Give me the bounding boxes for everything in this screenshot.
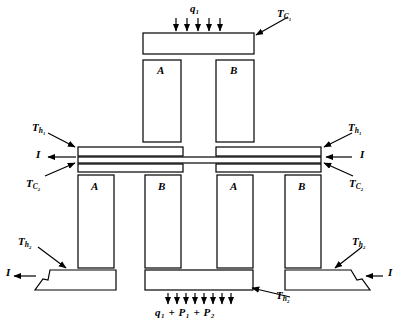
leader-Th1-right: [324, 133, 352, 147]
temperature-sub-TC2-right: C₂: [356, 182, 364, 191]
temperature-base-TC1: T: [277, 7, 284, 19]
bottom-plate-center: [145, 270, 253, 290]
temperature-sub-Th2-right: h₂: [359, 240, 366, 249]
mid-strip-upper-right: [216, 147, 321, 156]
current-label-left-bottom: I: [6, 267, 10, 278]
temperature-sub-Th2-left: h₂: [25, 240, 32, 249]
top-cold-plate: [143, 33, 254, 54]
mid-strip-upper-left: [78, 147, 183, 156]
heat-flux-arrows-bottom: [168, 293, 231, 304]
temperature-label-TC1: TC₁: [277, 8, 291, 20]
temperature-sub-TC1: C₁: [284, 12, 292, 21]
temperature-base-Th2-center: T: [276, 289, 283, 301]
heat-flux-arrows-top: [176, 18, 220, 31]
leader-Th1-left: [48, 133, 75, 147]
temperature-label-TC2-right: TC₂: [349, 178, 363, 190]
temperature-base-Th1-right: T: [348, 121, 355, 133]
temperature-label-Th2-center: Th₂: [276, 290, 290, 302]
heat-flux-label-top: q₁: [190, 3, 199, 14]
current-label-right-bottom: I: [388, 267, 392, 278]
heat-flux-label-bottom: q₁ + P₁ + P₂: [155, 307, 215, 318]
bottom-plate-left: [35, 270, 116, 290]
bottom-plate-right: [285, 270, 370, 290]
temperature-label-TC2-left: TC₂: [26, 178, 40, 190]
current-label-left-middle: I: [36, 149, 40, 160]
temperature-base-Th1-left: T: [32, 121, 39, 133]
leg-label-lower-A-1: A: [91, 181, 98, 192]
temperature-base-Th2-left: T: [18, 235, 25, 247]
temperature-sub-Th2-center: h₂: [283, 294, 290, 303]
temperature-sub-Th1-right: h₁: [355, 126, 362, 135]
temperature-label-Th2-right: Th₂: [352, 236, 366, 248]
leader-TC2-left: [45, 163, 75, 176]
figure-canvas: A B A B A B TC₁ Th₁ TC₂ Th₁ TC₂ Th₂ Th₂ …: [0, 0, 401, 325]
temperature-base-TC2-right: T: [349, 177, 356, 189]
thermoelectric-cooler-diagram: [0, 0, 401, 325]
leg-label-upper-B: B: [230, 65, 237, 76]
temperature-label-Th2-left: Th₂: [18, 236, 32, 248]
leg-label-lower-B-1: B: [158, 181, 165, 192]
temperature-sub-Th1-left: h₁: [39, 126, 46, 135]
temperature-label-Th1-left: Th₁: [32, 122, 46, 134]
temperature-base-TC2-left: T: [26, 177, 33, 189]
temperature-label-Th1-right: Th₁: [348, 122, 362, 134]
leg-label-lower-A-2: A: [230, 181, 237, 192]
mid-strip-lower-right: [216, 164, 321, 172]
leader-Th2-left: [38, 247, 66, 268]
leader-Th2-right: [335, 247, 362, 268]
temperature-sub-TC2-left: C₂: [33, 182, 41, 191]
leader-TC2-right: [324, 163, 353, 176]
mid-strip-lower-left: [78, 164, 183, 172]
temperature-base-Th2-right: T: [352, 235, 359, 247]
mid-strip-center-band: [78, 157, 321, 163]
leg-label-upper-A: A: [157, 65, 164, 76]
current-label-right-middle: I: [360, 149, 364, 160]
leg-label-lower-B-2: B: [298, 181, 305, 192]
